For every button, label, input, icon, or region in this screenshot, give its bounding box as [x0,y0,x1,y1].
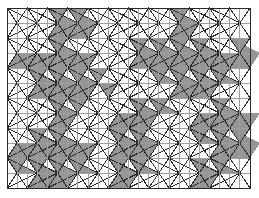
lattice-figure [0,0,259,198]
lattice-canvas [0,0,259,198]
